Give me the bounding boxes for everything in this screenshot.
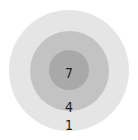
middle-ring-label: 4	[54, 100, 84, 114]
outer-ring-label: 1	[54, 118, 84, 132]
inner-ring-label: 7	[54, 66, 84, 80]
